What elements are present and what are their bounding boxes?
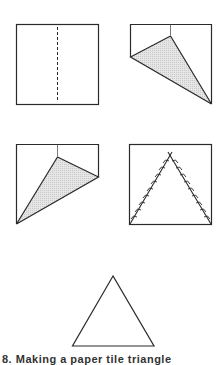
figure-caption: 8. Making a paper tile triangle [2,353,172,365]
step-1-square [17,25,99,105]
folded-flap-shaded [17,157,99,224]
step-2-left-fold [131,25,212,105]
step-4-stitch-lines [130,145,212,225]
folded-flap-shaded [131,36,212,104]
step-3-right-fold [17,145,99,225]
step-5-triangle [73,276,155,346]
